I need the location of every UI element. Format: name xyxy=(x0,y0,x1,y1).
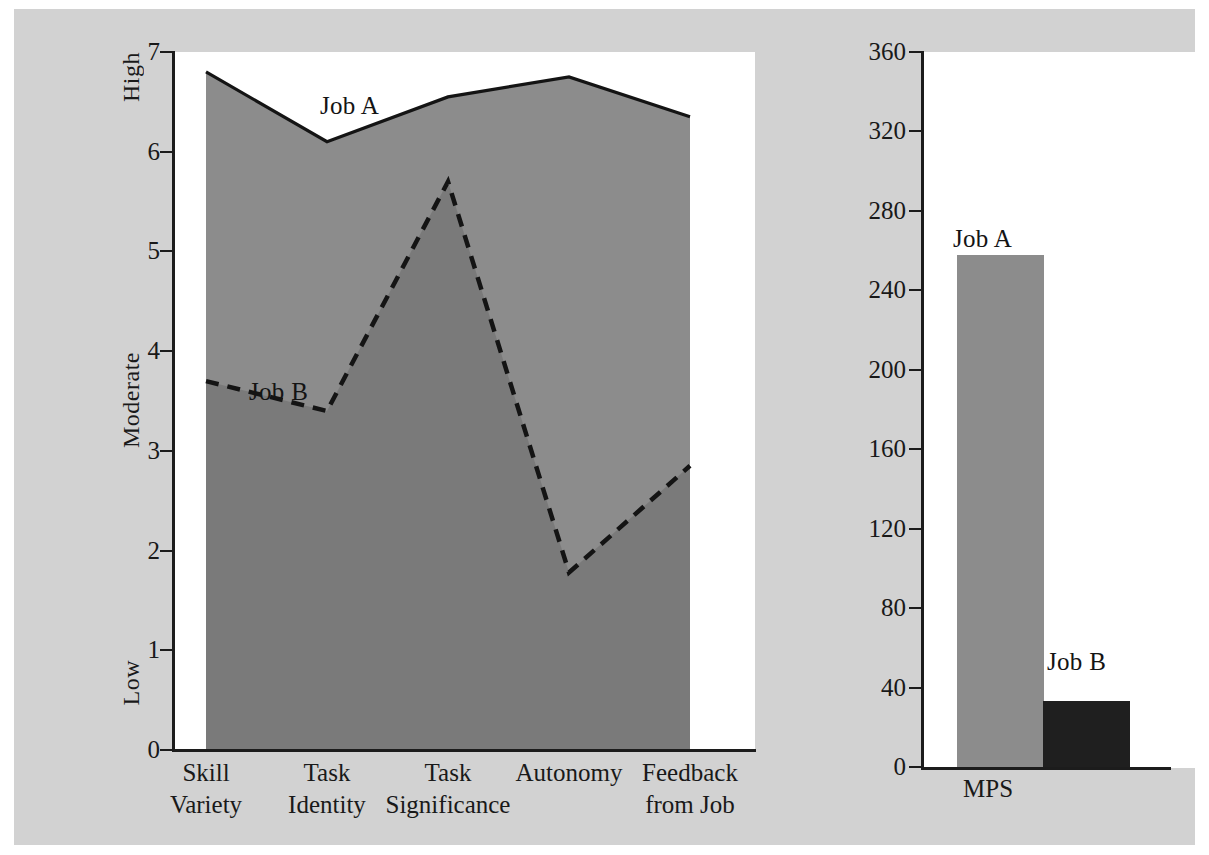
y-anchor-label-high: High xyxy=(118,52,145,102)
mps-y-tick-label-text: 360 xyxy=(840,39,906,64)
y-tick-1 xyxy=(160,649,174,651)
y-tick-3 xyxy=(160,450,174,452)
left-x-axis-line xyxy=(172,749,756,752)
mps-y-tick-360 xyxy=(909,51,923,53)
job-characteristics-profile-chart: 01234567 High Moderate Low SkillVarietyT… xyxy=(0,0,790,855)
bar-job-a xyxy=(957,255,1044,767)
y-tick-4 xyxy=(160,350,174,352)
mps-y-tick-label-40: 40 xyxy=(840,675,906,701)
y-tick-label-text: 5 xyxy=(120,238,160,263)
y-tick-7 xyxy=(160,51,174,53)
mps-y-tick-0 xyxy=(909,766,923,768)
mps-y-tick-40 xyxy=(909,687,923,689)
mps-y-tick-120 xyxy=(909,528,923,530)
x-axis-category-line: Feedback xyxy=(595,757,785,789)
mps-y-tick-280 xyxy=(909,210,923,212)
mps-y-tick-label-320: 320 xyxy=(840,118,906,144)
mps-y-tick-label-80: 80 xyxy=(840,595,906,621)
mps-y-tick-80 xyxy=(909,607,923,609)
mps-y-tick-label-text: 40 xyxy=(840,675,906,700)
y-tick-2 xyxy=(160,550,174,552)
figure-page: 01234567 High Moderate Low SkillVarietyT… xyxy=(0,0,1209,855)
mps-y-tick-240 xyxy=(909,289,923,291)
mps-y-tick-label-text: 160 xyxy=(840,436,906,461)
mps-y-tick-label-160: 160 xyxy=(840,436,906,462)
y-tick-label-2: 2 xyxy=(108,538,160,564)
mps-y-tick-320 xyxy=(909,130,923,132)
mps-y-tick-200 xyxy=(909,369,923,371)
right-x-axis-line xyxy=(921,767,1171,770)
mps-y-tick-label-280: 280 xyxy=(840,198,906,224)
x-axis-category-line: Significance xyxy=(353,789,543,821)
x-axis-category-line: from Job xyxy=(595,789,785,821)
mps-y-tick-label-text: 80 xyxy=(840,595,906,620)
mps-y-tick-label-0: 0 xyxy=(840,754,906,780)
y-tick-5 xyxy=(160,250,174,252)
mps-y-tick-label-text: 120 xyxy=(840,516,906,541)
motivating-potential-score-chart: 04080120160200240280320360 Job A Job B M… xyxy=(790,0,1209,855)
y-tick-label-5: 5 xyxy=(108,238,160,264)
x-axis-category-mps: MPS xyxy=(963,775,1013,803)
series-annotation-job-b: Job B xyxy=(249,378,308,406)
mps-y-tick-label-120: 120 xyxy=(840,516,906,542)
bar-annotation-job-b: Job B xyxy=(1047,648,1106,676)
y-tick-0 xyxy=(160,749,174,751)
right-y-axis-line xyxy=(921,51,924,770)
y-anchor-label-low: Low xyxy=(118,660,145,706)
mps-y-tick-label-text: 280 xyxy=(840,198,906,223)
mps-y-tick-label-240: 240 xyxy=(840,277,906,303)
mps-y-tick-label-text: 200 xyxy=(840,357,906,382)
mps-y-tick-label-text: 320 xyxy=(840,118,906,143)
mps-y-tick-label-text: 0 xyxy=(840,754,906,779)
y-tick-label-text: 2 xyxy=(120,538,160,563)
series-annotation-job-a: Job A xyxy=(320,92,379,120)
y-tick-6 xyxy=(160,151,174,153)
left-y-axis-line xyxy=(172,51,175,752)
mps-y-tick-label-text: 240 xyxy=(840,277,906,302)
bar-annotation-job-a: Job A xyxy=(953,225,1012,253)
bar-job-b xyxy=(1043,701,1130,767)
y-tick-label-text: 6 xyxy=(120,139,160,164)
mps-y-tick-label-360: 360 xyxy=(840,39,906,65)
mps-y-tick-160 xyxy=(909,448,923,450)
y-anchor-label-moderate: Moderate xyxy=(118,352,145,448)
y-tick-label-6: 6 xyxy=(108,139,160,165)
x-axis-category-4: Feedbackfrom Job xyxy=(595,757,785,821)
mps-y-tick-label-200: 200 xyxy=(840,357,906,383)
